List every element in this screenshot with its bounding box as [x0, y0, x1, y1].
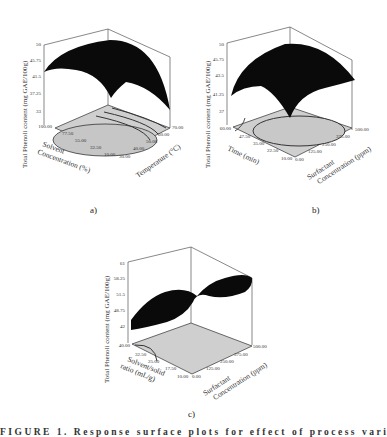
- svg-text:55.00: 55.00: [75, 138, 87, 143]
- svg-text:250.00: 250.00: [322, 142, 336, 147]
- svg-text:500.00: 500.00: [355, 127, 369, 132]
- svg-text:375.00: 375.00: [234, 352, 248, 357]
- svg-text:0.00: 0.00: [192, 374, 201, 379]
- svg-text:40.00: 40.00: [119, 343, 131, 348]
- svg-text:125.00: 125.00: [206, 366, 220, 371]
- svg-text:58.25: 58.25: [114, 276, 126, 281]
- svg-text:0.00: 0.00: [295, 157, 304, 162]
- z-axis-label-a: Total Phenoli content (mg GAE/100g): [21, 60, 29, 168]
- svg-text:32.50: 32.50: [135, 352, 147, 357]
- svg-text:47.50: 47.50: [239, 134, 251, 139]
- svg-text:41.5: 41.5: [32, 74, 41, 79]
- svg-text:50.00: 50.00: [146, 139, 158, 144]
- z-axis-label-b: Total Phenoli content (mg GAE/100g): [204, 60, 212, 168]
- svg-text:10.00: 10.00: [177, 374, 189, 379]
- z-axis-label-c: Total Phenoli content (mg GAE/100g): [103, 275, 111, 383]
- svg-text:500.00: 500.00: [253, 344, 267, 349]
- svg-text:41.25: 41.25: [213, 92, 225, 97]
- panel-label-b: b): [312, 205, 320, 215]
- svg-text:50: 50: [219, 42, 225, 47]
- svg-text:40.00: 40.00: [133, 146, 145, 151]
- svg-text:375.00: 375.00: [336, 134, 350, 139]
- svg-text:61: 61: [120, 261, 126, 266]
- svg-text:35.00: 35.00: [253, 141, 265, 146]
- panel-label-a: a): [90, 205, 97, 215]
- svg-text:10.00: 10.00: [104, 152, 116, 157]
- svg-text:125.00: 125.00: [308, 149, 322, 154]
- svg-text:37.25: 37.25: [30, 91, 42, 96]
- svg-text:22.50: 22.50: [267, 148, 279, 153]
- svg-text:17.50: 17.50: [165, 366, 177, 371]
- svg-text:51.5: 51.5: [116, 292, 125, 297]
- svg-text:45.75: 45.75: [213, 57, 225, 62]
- svg-text:43.5: 43.5: [215, 73, 224, 78]
- figure-caption: FIGURE 1. Response surface plots for eff…: [0, 427, 387, 437]
- svg-text:45.75: 45.75: [30, 58, 42, 63]
- panel-label-c: c): [188, 409, 195, 419]
- svg-text:60.00: 60.00: [158, 132, 170, 137]
- svg-text:77.50: 77.50: [62, 131, 74, 136]
- svg-text:250.00: 250.00: [220, 359, 234, 364]
- chart-panel-c: 61 58.25 51.5 48.75 42 40.00 32.50 25.00…: [95, 220, 295, 400]
- chart-panel-a: 50 45.75 41.5 37.25 33 100.00 77.50 55.0…: [0, 0, 195, 190]
- x-axis-label-b: Time (min): [226, 144, 261, 167]
- svg-text:100.00: 100.00: [38, 124, 52, 129]
- svg-text:48.75: 48.75: [114, 308, 126, 313]
- svg-text:33: 33: [36, 109, 42, 114]
- svg-text:10.00: 10.00: [281, 156, 293, 161]
- svg-text:70.00: 70.00: [172, 125, 184, 130]
- z-ticks-a: 50 45.75 41.5 37.25 33: [30, 42, 42, 114]
- svg-text:60.00: 60.00: [220, 126, 232, 131]
- svg-text:32.50: 32.50: [90, 145, 102, 150]
- svg-text:42: 42: [120, 324, 126, 329]
- chart-panel-b: 50 45.75 43.5 41.25 37 60.00 47.50 35.00…: [195, 0, 387, 190]
- svg-text:37: 37: [219, 109, 225, 114]
- svg-text:50: 50: [36, 42, 42, 47]
- svg-text:30.00: 30.00: [119, 154, 131, 159]
